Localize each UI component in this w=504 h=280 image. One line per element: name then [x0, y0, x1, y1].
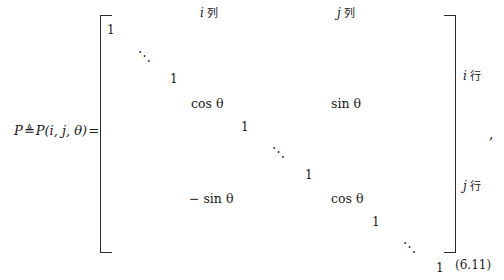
matrix-entry-one-mid-1: 1: [241, 120, 249, 134]
lhs-function: P(i, j, θ): [36, 123, 87, 138]
lhs-definition: P≜P(i, j, θ)=: [14, 123, 100, 138]
equation-figure: P≜P(i, j, θ)= 1⋱1cos θsin θ1⋱1− sin θcos…: [0, 0, 504, 280]
matrix-entry-ddots-mid: ⋱: [272, 144, 285, 159]
row-label-i-label: 行: [470, 70, 481, 83]
row-label-i-index: i: [463, 69, 467, 83]
trailing-comma: ,: [489, 126, 493, 142]
column-header-j-index: j: [337, 6, 341, 20]
column-header-i-label: 列: [207, 7, 218, 20]
lhs-symbol: P: [14, 123, 23, 138]
matrix-entry-cos-theta-ii: cos θ: [191, 96, 223, 111]
matrix-entry-ddots-top: ⋱: [138, 48, 151, 63]
matrix-entry-neg-sin-theta-ji: − sin θ: [189, 191, 233, 206]
matrix-entry-ddots-bot: ⋱: [403, 239, 416, 254]
matrix-entry-cos-theta-jj: cos θ: [331, 191, 363, 206]
matrix-entry-one-bot-1: 1: [372, 215, 380, 229]
matrix-entry-one-bot-2: 1: [436, 261, 444, 275]
matrix-entry-one-mid-2: 1: [305, 168, 313, 182]
row-label-j: j行: [463, 177, 481, 193]
matrix-body: 1⋱1cos θsin θ1⋱1− sin θcos θ1⋱1: [100, 15, 455, 251]
column-header-i: i列: [200, 4, 218, 20]
triangleq-operator: ≜: [23, 123, 36, 138]
matrix-entry-one-top-1: 1: [107, 23, 115, 37]
column-header-j: j列: [337, 4, 355, 20]
column-header-i-index: i: [200, 6, 204, 20]
equation-number: (6.11): [455, 258, 491, 272]
row-label-j-index: j: [463, 179, 467, 193]
matrix-entry-sin-theta-ij: sin θ: [331, 96, 361, 111]
equals-operator: =: [87, 123, 100, 138]
row-label-i: i行: [463, 67, 481, 83]
column-header-j-label: 列: [344, 7, 355, 20]
matrix-entry-one-top-2: 1: [170, 72, 178, 86]
row-label-j-label: 行: [470, 180, 481, 193]
